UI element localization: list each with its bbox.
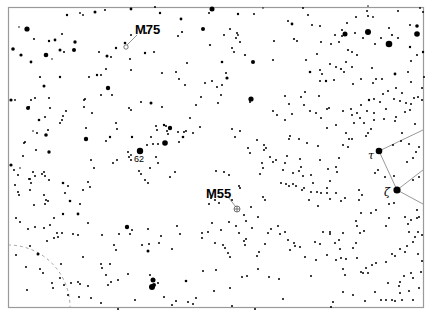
star	[364, 300, 366, 302]
star	[421, 87, 423, 89]
star	[303, 104, 305, 106]
star	[48, 40, 50, 42]
star	[27, 228, 29, 230]
constellation-line	[397, 170, 423, 190]
star	[248, 96, 253, 101]
star	[213, 290, 215, 292]
star	[245, 220, 247, 222]
star	[112, 162, 114, 164]
star	[49, 107, 51, 109]
star	[325, 80, 327, 82]
star	[202, 270, 204, 272]
star-tau[interactable]	[376, 148, 383, 155]
star	[155, 125, 157, 127]
star	[299, 246, 301, 248]
star	[51, 282, 53, 284]
star	[44, 133, 48, 137]
star	[83, 99, 85, 101]
star	[410, 103, 412, 105]
star-zeta[interactable]	[393, 186, 400, 193]
star	[275, 159, 277, 161]
constellation-line	[379, 151, 397, 190]
star	[174, 171, 176, 173]
star	[166, 130, 168, 132]
star	[371, 67, 373, 69]
star	[144, 179, 146, 181]
star	[155, 156, 157, 158]
star	[292, 172, 294, 174]
star	[93, 167, 95, 169]
m55-label[interactable]: M55	[206, 186, 231, 201]
star	[315, 259, 317, 261]
star	[414, 123, 416, 125]
star	[152, 143, 154, 145]
star	[414, 31, 420, 37]
star	[365, 267, 367, 269]
star	[42, 272, 44, 274]
star	[282, 298, 284, 300]
star	[385, 108, 387, 110]
star	[329, 198, 331, 200]
star	[215, 269, 217, 271]
star	[204, 82, 206, 84]
star	[82, 189, 84, 191]
star	[386, 41, 393, 48]
star	[269, 156, 271, 158]
star	[44, 53, 49, 58]
star	[412, 299, 414, 301]
star	[29, 178, 31, 180]
star	[345, 61, 347, 63]
star	[53, 237, 55, 239]
star	[30, 99, 32, 101]
star	[24, 141, 26, 143]
star	[130, 69, 132, 71]
star	[91, 112, 93, 114]
star	[131, 136, 133, 138]
star	[320, 192, 322, 194]
star	[295, 185, 297, 187]
star	[300, 166, 302, 168]
star	[330, 306, 332, 308]
star	[363, 230, 365, 232]
star	[124, 42, 127, 45]
star	[110, 281, 112, 283]
star	[329, 63, 331, 65]
star	[30, 61, 33, 64]
star	[62, 115, 64, 117]
star	[84, 137, 88, 141]
star	[185, 130, 187, 132]
star	[43, 194, 45, 196]
star	[375, 262, 377, 264]
star	[328, 107, 330, 109]
star	[29, 245, 31, 247]
star	[56, 232, 58, 234]
star	[88, 76, 90, 78]
star	[316, 53, 318, 55]
star	[157, 162, 159, 164]
m75-label[interactable]: M75	[135, 22, 160, 37]
star	[147, 250, 150, 253]
star	[82, 256, 84, 258]
star	[101, 234, 103, 236]
star	[332, 301, 334, 303]
star	[178, 141, 180, 143]
star	[335, 66, 337, 68]
star	[412, 179, 414, 181]
star	[220, 94, 222, 96]
star	[304, 91, 306, 93]
star	[44, 116, 46, 118]
star	[106, 86, 110, 90]
star	[264, 199, 266, 201]
star	[130, 109, 132, 111]
star	[244, 54, 246, 56]
star	[201, 27, 205, 31]
star	[231, 305, 233, 307]
star	[185, 280, 188, 283]
star	[286, 155, 288, 157]
star	[134, 299, 136, 301]
star-field	[9, 5, 425, 310]
star	[284, 231, 286, 233]
star	[200, 96, 202, 98]
m75-cluster-icon[interactable]	[124, 45, 128, 49]
star	[82, 14, 84, 16]
